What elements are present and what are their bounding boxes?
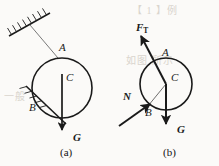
label-b-force-g: G [177,124,185,135]
label-a-point-c: C [66,72,73,83]
label-b-force-ft: FT [136,22,148,33]
ceiling-support [8,8,51,36]
panel-a-group [8,8,93,130]
label-b-point-b: B [145,107,152,118]
label-a-point-b: B [29,102,36,113]
tension-vector [141,36,166,84]
label-a-point-a: A [59,42,66,53]
ceiling-hatching [8,8,47,34]
label-b-point-a: A [162,47,169,58]
ceiling-line [9,13,50,36]
figure-canvas [0,0,219,166]
caption-panel-a: (a) [60,147,72,158]
physics-figure: 【 1 】例 一般 如图 所示 [0,0,219,166]
caption-panel-b: (b) [163,147,176,158]
incline-support [20,86,67,124]
label-a-force-g: G [73,132,81,143]
radius-c-to-b [148,84,166,106]
force-ft-subscript: T [143,26,148,35]
string-ceiling-to-a [30,25,58,58]
panel-b-group [119,36,192,126]
label-b-point-c: C [171,72,178,83]
label-b-force-n: N [123,91,131,102]
